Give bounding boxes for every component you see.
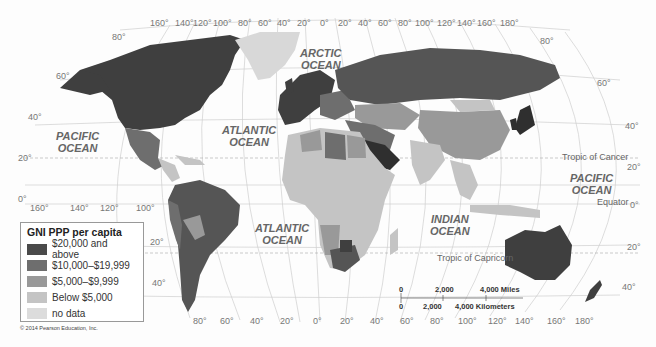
lon-label: 120° <box>193 18 212 28</box>
lon-label: 100° <box>415 18 434 28</box>
lon-label: 120° <box>488 316 507 326</box>
ocean-label-atlantic-north: ATLANTICOCEAN <box>222 124 276 148</box>
tropic-of-capricorn-label: Tropic of Capricorn <box>437 253 513 263</box>
lon-label: 20° <box>340 316 354 326</box>
lon-label: 60° <box>400 316 414 326</box>
legend-item: $20,000 and above <box>27 241 137 257</box>
lon-label: 20° <box>338 18 352 28</box>
legend-item: no data <box>27 305 137 321</box>
ocean-label-line: OCEAN <box>570 184 613 196</box>
legend-label: no data <box>52 308 85 319</box>
ocean-label-indian: INDIANOCEAN <box>430 213 470 237</box>
legend-item: $10,000–$19,999 <box>27 257 137 273</box>
southeast-asia <box>450 160 478 200</box>
egypt <box>347 135 366 158</box>
ocean-label-line: ATLANTIC <box>222 124 276 136</box>
ocean-label-line: ARCTIC <box>300 47 342 59</box>
lat-label: 60° <box>597 78 611 88</box>
scale-miles-2000: 2,000 <box>435 285 454 294</box>
legend-swatch <box>27 308 47 319</box>
lat-label: 20° <box>18 153 32 163</box>
lon-label: 60° <box>220 316 234 326</box>
ocean-label-line: PACIFIC <box>56 130 99 142</box>
legend-title: GNI PPP per capita <box>27 226 137 238</box>
lat-label: 20° <box>627 162 641 172</box>
legend-swatch <box>27 276 47 287</box>
russia <box>335 48 560 105</box>
ocean-label-line: PACIFIC <box>570 172 613 184</box>
japan <box>515 105 535 135</box>
caribbean <box>175 155 205 165</box>
tropic-of-cancer-label: Tropic of Cancer <box>562 152 628 162</box>
lat-label: 80° <box>112 32 126 42</box>
indonesia <box>470 205 540 218</box>
legend-swatch <box>27 244 47 255</box>
mexico <box>125 128 165 170</box>
lon-label: 60° <box>258 18 272 28</box>
lon-label: 20° <box>280 316 294 326</box>
legend-item: $5,000–$9,999 <box>27 273 137 289</box>
lon-label: 60° <box>378 18 392 28</box>
ocean-label-line: OCEAN <box>300 59 342 71</box>
lon-label: 120° <box>100 203 119 213</box>
lon-label: 40° <box>250 316 264 326</box>
scale-km-0: 0 <box>399 302 403 311</box>
lat-label: 40° <box>28 112 42 122</box>
lon-label: 160° <box>30 203 49 213</box>
lat-label: 0° <box>18 194 27 204</box>
australia <box>505 225 572 280</box>
lat-label: 20° <box>627 242 641 252</box>
lon-label: 160° <box>547 316 566 326</box>
lon-label: 140° <box>175 18 194 28</box>
lon-label: 80° <box>398 18 412 28</box>
lon-label: 80° <box>238 18 252 28</box>
lat-label: 0° <box>630 200 639 210</box>
lon-label: 180° <box>575 316 594 326</box>
india <box>410 140 445 185</box>
ocean-label-line: OCEAN <box>56 142 99 154</box>
lat-label: 40° <box>625 121 639 131</box>
lon-label: 40° <box>277 18 291 28</box>
legend-label: Below $5,000 <box>52 292 113 303</box>
korea <box>510 118 518 130</box>
lon-label: 20° <box>297 18 311 28</box>
lon-label: 40° <box>358 18 372 28</box>
ocean-label-pacific-west: PACIFICOCEAN <box>56 130 99 154</box>
lon-label: 140° <box>457 18 476 28</box>
copyright: © 2014 Pearson Education, Inc. <box>20 325 98 331</box>
lon-label: 160° <box>477 18 496 28</box>
madagascar <box>390 228 398 255</box>
lon-label: 180° <box>500 18 519 28</box>
lon-label: 0° <box>320 18 329 28</box>
legend-label: $20,000 and above <box>52 238 137 260</box>
legend-label: $10,000–$19,999 <box>52 260 130 271</box>
lat-label: 40° <box>622 282 636 292</box>
lat-label: 20° <box>150 237 164 247</box>
lon-label: 100° <box>458 316 477 326</box>
legend-label: $5,000–$9,999 <box>52 276 119 287</box>
equator-label: Equator <box>597 197 629 207</box>
new-zealand <box>585 280 602 302</box>
libya <box>325 132 346 160</box>
scale-km-2000: 2,000 <box>423 302 442 311</box>
ocean-label-line: INDIAN <box>430 213 470 225</box>
scale-bar: 0 2,000 4,000 Miles 0 2,000 4,000 Kilome… <box>398 285 528 315</box>
lon-label: 40° <box>370 316 384 326</box>
lat-label: 60° <box>56 71 70 81</box>
ocean-label-pacific-east: PACIFICOCEAN <box>570 172 613 196</box>
lon-label: 140° <box>515 316 534 326</box>
legend: GNI PPP per capita $20,000 and above $10… <box>20 222 144 322</box>
lat-label: 40° <box>152 278 166 288</box>
legend-item: Below $5,000 <box>27 289 137 305</box>
lon-label: 0° <box>313 316 322 326</box>
lon-label: 120° <box>437 18 456 28</box>
legend-swatch <box>27 292 47 303</box>
legend-swatch <box>27 260 47 271</box>
lon-label: 80° <box>193 316 207 326</box>
lon-label: 100° <box>213 18 232 28</box>
lon-label: 140° <box>70 203 89 213</box>
ocean-label-line: OCEAN <box>222 136 276 148</box>
botswana <box>340 240 352 252</box>
ocean-label-atlantic-south: ATLANTICOCEAN <box>255 222 309 246</box>
lon-label: 80° <box>430 316 444 326</box>
